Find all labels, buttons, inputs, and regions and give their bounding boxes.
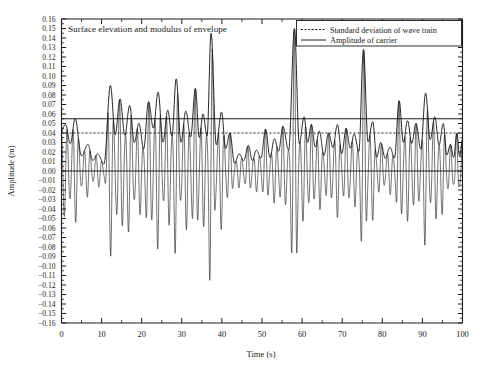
- y-tick-label: 0.02: [42, 148, 55, 157]
- y-tick-label: −0.09: [38, 252, 56, 261]
- x-tick-label: 40: [218, 330, 226, 339]
- x-tick-label: 30: [178, 330, 186, 339]
- y-axis-label: Amplitude (m): [6, 145, 16, 196]
- x-tick-label: 20: [138, 330, 146, 339]
- y-tick-label: 0.12: [42, 53, 55, 62]
- legend-label-amplitude: Amplitude of carrier: [330, 36, 398, 45]
- y-tick-label: −0.08: [38, 243, 56, 252]
- x-tick-label: 50: [258, 330, 266, 339]
- y-tick-label: −0.05: [38, 214, 56, 223]
- y-tick-label: −0.01: [38, 176, 56, 185]
- reference-lines: [62, 119, 463, 171]
- y-tick-label: −0.07: [38, 233, 56, 242]
- legend-label-std-dev: Standard deviation of wave train: [330, 26, 437, 35]
- y-tick-label: 0.14: [42, 34, 55, 43]
- x-tick-label: 60: [298, 330, 306, 339]
- x-tick-label: 90: [418, 330, 426, 339]
- chart-legend: Standard deviation of wave train Amplitu…: [297, 21, 462, 47]
- y-tick-label: −0.10: [38, 262, 56, 271]
- y-tick-label: −0.16: [38, 319, 56, 328]
- y-tick-label: 0.11: [42, 62, 55, 71]
- chart-canvas: 0.160.150.140.130.120.110.100.090.080.07…: [0, 0, 480, 368]
- y-tick-label: −0.15: [38, 309, 56, 318]
- y-tick-label: 0.04: [42, 129, 55, 138]
- x-tick-label: 0: [59, 330, 63, 339]
- wave-chart-figure: 0.160.150.140.130.120.110.100.090.080.07…: [0, 0, 480, 368]
- y-tick-label: 0.01: [42, 157, 55, 166]
- y-tick-label: −0.14: [38, 300, 56, 309]
- y-tick-label: −0.12: [38, 281, 56, 290]
- x-tick-label: 80: [378, 330, 386, 339]
- y-tick-label: −0.06: [38, 224, 56, 233]
- y-tick-label: 0.07: [42, 100, 55, 109]
- y-tick-label: −0.02: [38, 186, 56, 195]
- y-tick-label: −0.04: [38, 205, 56, 214]
- page-title: Surface elevation and modulus of envelop…: [68, 24, 227, 34]
- x-axis-label: Time (s): [246, 349, 275, 359]
- y-tick-label: 0.15: [42, 24, 55, 33]
- y-tick-label: 0.09: [42, 81, 55, 90]
- y-tick-label: −0.11: [38, 271, 55, 280]
- y-tick-label: 0.10: [42, 72, 55, 81]
- envelope-upper-series: [62, 29, 463, 164]
- x-tick-label: 70: [338, 330, 346, 339]
- y-tick-label: 0.05: [42, 119, 55, 128]
- x-tick-label: 10: [97, 330, 105, 339]
- y-tick-label: 0.16: [42, 15, 55, 24]
- x-tick-label: 100: [456, 330, 469, 339]
- y-tick-label: 0.06: [42, 110, 55, 119]
- y-tick-label: 0.03: [42, 138, 55, 147]
- y-tick-label: −0.03: [38, 195, 56, 204]
- y-tick-label: 0.08: [42, 91, 55, 100]
- y-tick-label: −0.13: [38, 290, 56, 299]
- y-tick-label: 0.13: [42, 43, 55, 52]
- y-tick-label: 0.00: [42, 167, 55, 176]
